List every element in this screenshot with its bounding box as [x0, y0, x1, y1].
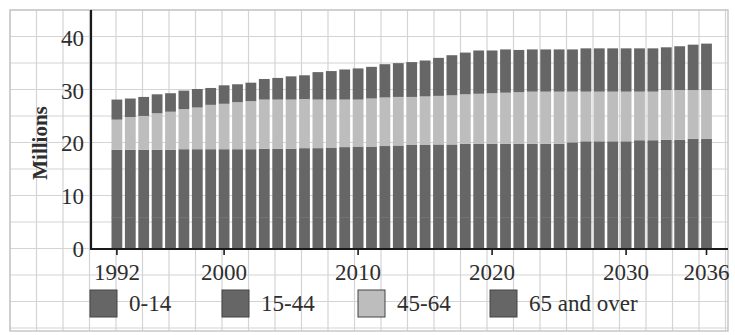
bar-segment-45-64: [219, 104, 230, 149]
bar-stack-2007: [313, 72, 324, 249]
bar-stack-2031: [634, 48, 645, 249]
y-tick-label: 40: [61, 26, 84, 51]
bar-segment-0-14: [259, 217, 270, 249]
bar-segment-65-and-over: [232, 84, 243, 102]
bar-segment-45-64: [179, 109, 190, 149]
bar-stack-2023: [527, 49, 538, 249]
bar-segment-45-64: [420, 96, 431, 145]
bar-stack-2030: [621, 48, 632, 249]
bar-segment-0-14: [701, 217, 712, 249]
bar-segment-0-14: [607, 217, 618, 249]
bar-stack-2012: [380, 64, 391, 249]
legend-swatch: [222, 290, 249, 317]
bar-segment-45-64: [487, 93, 498, 144]
bar-segment-15-44: [112, 150, 123, 218]
bar-segment-45-64: [581, 92, 592, 142]
bar-stack-1998: [192, 89, 203, 249]
bar-segment-45-64: [473, 94, 484, 144]
bar-segment-65-and-over: [259, 79, 270, 100]
bar-stack-2018: [460, 53, 471, 249]
x-tick-label: 1992: [94, 260, 140, 285]
bar-segment-45-64: [688, 90, 699, 139]
bar-segment-45-64: [152, 113, 163, 149]
bar-segment-65-and-over: [581, 48, 592, 91]
bar-segment-45-64: [648, 92, 659, 141]
bar-stack-2010: [353, 68, 364, 249]
bar-segment-65-and-over: [607, 48, 618, 91]
bar-segment-15-44: [701, 139, 712, 218]
bar-stack-2020: [487, 50, 498, 249]
bar-segment-0-14: [433, 217, 444, 249]
bar-stack-2017: [447, 55, 458, 249]
bar-segment-0-14: [246, 217, 257, 249]
bar-stack-1992: [112, 100, 123, 249]
bar-segment-45-64: [272, 100, 283, 149]
bar-segment-0-14: [661, 217, 672, 249]
bar-segment-0-14: [594, 217, 605, 249]
bar-segment-0-14: [487, 217, 498, 249]
bar-segment-45-64: [701, 90, 712, 139]
bar-segment-65-and-over: [339, 69, 350, 99]
bar-segment-0-14: [540, 217, 551, 249]
bar-segment-45-64: [594, 92, 605, 142]
bar-segment-65-and-over: [701, 44, 712, 90]
bar-segment-15-44: [192, 149, 203, 217]
bar-segment-65-and-over: [353, 68, 364, 99]
bar-segment-15-44: [138, 150, 149, 218]
bar-segment-45-64: [540, 92, 551, 144]
x-tick-label: 2020: [469, 260, 515, 285]
bar-segment-15-44: [460, 144, 471, 217]
bar-segment-65-and-over: [313, 72, 324, 99]
bar-stack-2027: [581, 48, 592, 249]
bar-stack-2001: [232, 84, 243, 249]
bar-segment-15-44: [554, 144, 565, 217]
bar-stack-2004: [272, 78, 283, 249]
bar-segment-15-44: [621, 141, 632, 217]
bar-segment-0-14: [219, 217, 230, 249]
bar-stack-2000: [219, 85, 230, 249]
bar-stack-2009: [339, 69, 350, 249]
bar-stack-2035: [688, 45, 699, 249]
bar-segment-0-14: [447, 217, 458, 249]
y-tick-label: 30: [61, 79, 84, 104]
legend-swatch: [490, 290, 517, 317]
bar-stack-2006: [299, 75, 310, 249]
legend-item-45-64: 45-64: [358, 290, 451, 317]
bar-segment-65-and-over: [674, 46, 685, 90]
bar-stack-2024: [540, 49, 551, 249]
bar-segment-65-and-over: [514, 50, 525, 92]
bar-segment-0-14: [688, 217, 699, 249]
bar-segment-15-44: [152, 150, 163, 218]
bar-segment-0-14: [165, 217, 176, 249]
bar-segment-45-64: [393, 97, 404, 146]
bar-segment-65-and-over: [393, 63, 404, 97]
legend: 0-1415-4445-6465 and over: [90, 290, 638, 317]
bar-stack-1993: [125, 99, 136, 249]
bar-stack-2014: [406, 62, 417, 249]
legend-swatch: [90, 290, 117, 317]
bar-segment-65-and-over: [219, 85, 230, 103]
bar-segment-45-64: [313, 100, 324, 149]
bar-segment-15-44: [393, 146, 404, 218]
bar-segment-45-64: [286, 100, 297, 149]
bar-segment-15-44: [527, 144, 538, 217]
bar-segment-45-64: [112, 120, 123, 150]
legend-label: 15-44: [261, 291, 315, 316]
bar-segment-15-44: [648, 140, 659, 217]
bar-stack-2013: [393, 63, 404, 249]
bar-segment-0-14: [527, 217, 538, 249]
bar-segment-65-and-over: [272, 78, 283, 100]
bar-segment-15-44: [674, 140, 685, 218]
bar-segment-45-64: [433, 96, 444, 145]
bar-segment-15-44: [500, 144, 511, 217]
bar-segment-15-44: [594, 141, 605, 217]
x-tick-label: 2030: [603, 260, 649, 285]
bar-segment-65-and-over: [246, 83, 257, 101]
bar-segment-0-14: [393, 217, 404, 249]
legend-item-15-44: 15-44: [222, 290, 315, 317]
bar-segment-15-44: [219, 149, 230, 217]
bar-stack-2025: [554, 49, 565, 249]
bar-segment-15-44: [353, 147, 364, 218]
bar-stack-2015: [420, 61, 431, 249]
legend-label: 65 and over: [529, 291, 638, 316]
